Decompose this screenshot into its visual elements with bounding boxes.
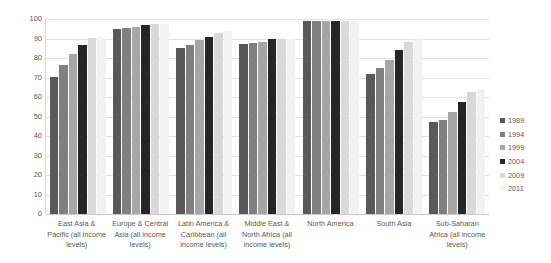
x-axis-label: East Asia & Pacific (all income levels) xyxy=(45,219,108,251)
bar[interactable] xyxy=(385,60,394,214)
bar-slot xyxy=(249,19,258,214)
x-axis-label: Latin America & Caribbean (all income le… xyxy=(172,219,235,251)
legend-swatch-icon xyxy=(500,118,505,123)
bar[interactable] xyxy=(414,38,423,214)
bar[interactable] xyxy=(122,28,131,214)
bar[interactable] xyxy=(214,33,223,214)
legend-label: 2011 xyxy=(508,185,524,192)
bar[interactable] xyxy=(50,77,59,214)
axis-baseline xyxy=(46,214,489,215)
bar[interactable] xyxy=(205,37,214,214)
bar-group xyxy=(109,19,172,214)
y-tick-label: 10 xyxy=(34,191,42,199)
bar[interactable] xyxy=(287,39,296,215)
bar[interactable] xyxy=(224,31,233,214)
bar[interactable] xyxy=(258,42,267,214)
bar[interactable] xyxy=(303,21,312,214)
bar[interactable] xyxy=(439,120,448,214)
y-tick-label: 80 xyxy=(34,54,42,62)
bar-group xyxy=(236,19,299,214)
bar[interactable] xyxy=(366,74,375,214)
bar[interactable] xyxy=(69,54,78,214)
bar[interactable] xyxy=(186,45,195,214)
bar[interactable] xyxy=(195,40,204,214)
bar[interactable] xyxy=(176,48,185,214)
y-tick-label: 0 xyxy=(38,210,42,218)
bar-slot xyxy=(429,19,438,214)
y-tick-label: 50 xyxy=(34,113,42,121)
bar[interactable] xyxy=(331,21,340,214)
bar[interactable] xyxy=(160,24,169,214)
bar[interactable] xyxy=(249,43,258,214)
bar[interactable] xyxy=(97,37,106,214)
legend-item[interactable]: 1994 xyxy=(500,128,551,142)
legend-item[interactable]: 1999 xyxy=(500,141,551,155)
y-tick-label: 70 xyxy=(34,74,42,82)
bar-slot xyxy=(376,19,385,214)
legend-label: 1989 xyxy=(508,117,524,124)
bar-slot xyxy=(303,19,312,214)
bar[interactable] xyxy=(312,21,321,214)
legend-item[interactable]: 2011 xyxy=(500,182,551,196)
legend-item[interactable]: 1989 xyxy=(500,114,551,128)
bar-groups xyxy=(46,19,489,214)
bar[interactable] xyxy=(404,42,413,214)
bar[interactable] xyxy=(59,65,68,214)
bar[interactable] xyxy=(88,38,97,214)
y-axis: 1009080706050403020100 xyxy=(20,14,42,215)
legend-swatch-icon xyxy=(500,132,505,137)
bar-slot xyxy=(224,19,233,214)
bar[interactable] xyxy=(78,45,87,214)
bar-slot xyxy=(113,19,122,214)
bar-slot xyxy=(350,19,359,214)
bar[interactable] xyxy=(277,39,286,215)
bar-group xyxy=(46,19,109,214)
bar[interactable] xyxy=(113,29,122,214)
bar[interactable] xyxy=(151,24,160,214)
bar-slot xyxy=(404,19,413,214)
x-axis-label: South Asia xyxy=(362,219,425,251)
bar[interactable] xyxy=(132,27,141,214)
x-axis-label: Europe & Central Asia (all income levels… xyxy=(108,219,171,251)
bar[interactable] xyxy=(376,68,385,214)
plot-area xyxy=(45,19,489,214)
legend-item[interactable]: 2004 xyxy=(500,155,551,169)
legend-label: 1994 xyxy=(508,131,524,138)
bar-slot xyxy=(69,19,78,214)
bar[interactable] xyxy=(395,50,404,214)
bar-slot xyxy=(97,19,106,214)
bar-slot xyxy=(214,19,223,214)
bar[interactable] xyxy=(322,21,331,214)
legend-swatch-icon xyxy=(500,173,505,178)
bar-slot xyxy=(141,19,150,214)
bar-slot xyxy=(268,19,277,214)
bar-slot xyxy=(439,19,448,214)
legend-label: 1999 xyxy=(508,144,524,151)
bar[interactable] xyxy=(448,112,457,214)
bar-slot xyxy=(122,19,131,214)
bar-group xyxy=(173,19,236,214)
bar[interactable] xyxy=(429,122,438,214)
bar[interactable] xyxy=(341,21,350,214)
y-tick-label: 90 xyxy=(34,35,42,43)
legend-swatch-icon xyxy=(500,159,505,164)
bar-slot xyxy=(195,19,204,214)
bar[interactable] xyxy=(458,102,467,214)
legend-item[interactable]: 2009 xyxy=(500,168,551,182)
bar-slot xyxy=(395,19,404,214)
bar[interactable] xyxy=(477,89,486,214)
bar-slot xyxy=(59,19,68,214)
bar-slot xyxy=(458,19,467,214)
bar-slot xyxy=(477,19,486,214)
bar[interactable] xyxy=(141,25,150,214)
y-tick-label: 60 xyxy=(34,93,42,101)
bar[interactable] xyxy=(268,39,277,214)
bar-slot xyxy=(205,19,214,214)
y-tick-label: 20 xyxy=(34,171,42,179)
bar-chart: 1009080706050403020100 East Asia & Pacif… xyxy=(0,0,551,263)
bar-slot xyxy=(322,19,331,214)
bar[interactable] xyxy=(239,44,248,214)
bar[interactable] xyxy=(467,92,476,214)
bar-slot xyxy=(312,19,321,214)
bar[interactable] xyxy=(350,21,359,214)
